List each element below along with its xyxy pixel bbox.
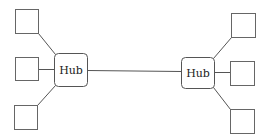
edge-hub-right-right-top — [214, 38, 232, 59]
edge-left-top-hub-left — [39, 34, 56, 55]
edge-hub-left-hub-right — [88, 71, 182, 72]
hub-network-diagram: HubHub — [0, 0, 270, 140]
hub-left-label: Hub — [59, 64, 83, 77]
node-left-middle — [16, 58, 39, 81]
hub-right: Hub — [182, 58, 215, 89]
node-left-top — [16, 10, 39, 34]
edge-hub-right-right-bottom — [214, 88, 231, 110]
node-right-middle — [231, 62, 255, 86]
node-right-top — [232, 14, 256, 38]
edge-left-bottom-hub-left — [38, 86, 56, 106]
hub-right-label: Hub — [186, 67, 210, 80]
hub-left: Hub — [55, 54, 88, 87]
node-right-bottom — [231, 110, 255, 134]
node-left-bottom — [15, 106, 38, 130]
